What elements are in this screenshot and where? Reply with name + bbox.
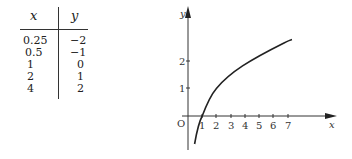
y-tick-label: 2 bbox=[179, 56, 185, 67]
x-tick-label: 3 bbox=[228, 120, 234, 131]
x-tick-label: 7 bbox=[285, 120, 291, 131]
y-axis-label: y bbox=[179, 8, 186, 19]
x-tick-label: 6 bbox=[270, 120, 276, 131]
x-axis-label: x bbox=[329, 119, 335, 130]
x-tick-label: 5 bbox=[256, 120, 262, 131]
y-tick-label: 1 bbox=[179, 83, 185, 94]
x-tick-label: 2 bbox=[213, 120, 219, 131]
x-tick-label: 1 bbox=[199, 120, 205, 131]
y-axis-arrow-icon bbox=[185, 6, 191, 18]
log-graph: y x O 1 2 3 4 5 6 7 1 2 bbox=[0, 0, 352, 159]
origin-label: O bbox=[177, 118, 185, 129]
x-tick-label: 4 bbox=[242, 120, 248, 131]
